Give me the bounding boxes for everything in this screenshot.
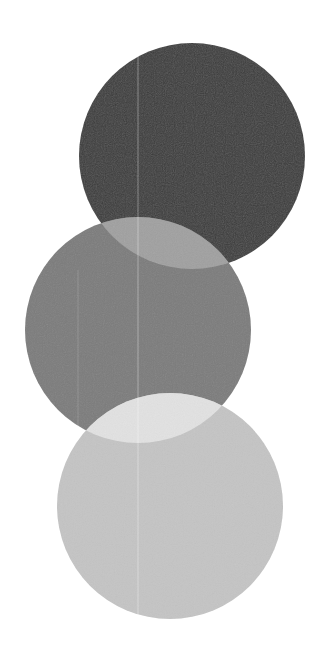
abstract-circles-artwork	[0, 0, 336, 670]
